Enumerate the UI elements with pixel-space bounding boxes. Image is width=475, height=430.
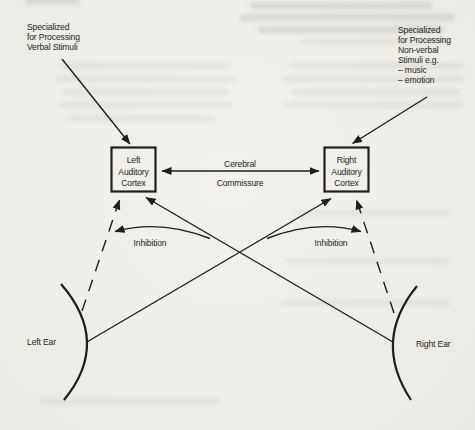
ipsilateral-path-right-ear-to-right-cortex: [357, 200, 395, 313]
left-ear-label: Left Ear: [27, 337, 56, 347]
nonverbal-specialization-line: Stimuli e.g.: [398, 55, 439, 65]
verbal-label-arrow: [62, 59, 130, 144]
nonverbal-label-arrow: [353, 97, 428, 144]
right-ear-arc: [393, 286, 417, 400]
verbal-specialization-line: Verbal Stimuli: [27, 42, 78, 52]
nonverbal-specialization-line: Non-verbal: [398, 45, 439, 55]
contralateral-path-right-ear-to-left-cortex: [146, 198, 393, 343]
left-box-line: Auditory: [118, 167, 149, 177]
contralateral-path-left-ear-to-right-cortex: [86, 199, 331, 343]
left-box-line: Left: [127, 155, 141, 165]
nonverbal-specialization-line: – emotion: [398, 75, 435, 85]
right-ear-label: Right Ear: [416, 339, 451, 349]
scanned-page: Specialized for Processing Verbal Stimul…: [0, 0, 475, 430]
commissure-label-bottom: Commissure: [217, 178, 264, 188]
left-inhibition-label: Inhibition: [134, 238, 167, 248]
nonverbal-specialization-line: – music: [398, 65, 427, 75]
nonverbal-specialization-line: Specialized: [398, 25, 441, 35]
left-box-line: Cortex: [121, 178, 146, 188]
nonverbal-specialization-label: Specialized for Processing Non-verbal St…: [398, 25, 451, 85]
right-box-line: Auditory: [331, 167, 362, 177]
right-box-line: Cortex: [334, 178, 359, 188]
right-box-line: Right: [337, 155, 357, 165]
verbal-specialization-label: Specialized for Processing Verbal Stimul…: [27, 22, 80, 52]
ipsilateral-path-left-ear-to-left-cortex: [82, 200, 120, 311]
auditory-pathways-diagram: Specialized for Processing Verbal Stimul…: [0, 0, 475, 430]
commissure-label-top: Cerebral: [224, 159, 256, 169]
right-inhibition-label: Inhibition: [315, 238, 348, 248]
verbal-specialization-line: for Processing: [27, 32, 80, 42]
nonverbal-specialization-line: for Processing: [398, 35, 451, 45]
verbal-specialization-line: Specialized: [27, 22, 70, 32]
left-ear-arc: [61, 284, 87, 400]
